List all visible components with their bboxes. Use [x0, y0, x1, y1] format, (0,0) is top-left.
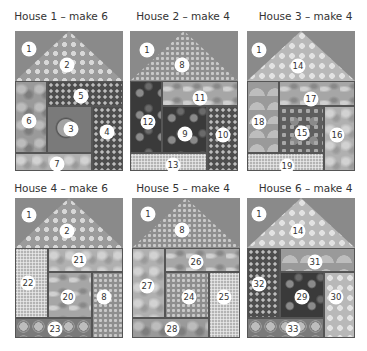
patch-label: 15 [295, 126, 310, 141]
patch-label: 1 [252, 207, 267, 222]
patch-label: 20 [61, 290, 76, 305]
patch-label: 28 [165, 322, 180, 337]
patch-label: 31 [308, 255, 323, 270]
patch-label: 1 [22, 42, 37, 57]
patch-label: 5 [74, 89, 89, 104]
patch-label: 21 [72, 253, 87, 268]
house-4-block: 1 2 22 21 20 8 23 [15, 198, 123, 338]
house-6-block: 1 14 32 31 29 30 33 [247, 198, 355, 338]
patch-label: 18 [252, 115, 267, 130]
patch-label: 3 [64, 122, 79, 137]
patch-label: 9 [178, 127, 193, 142]
patch-label: 1 [22, 208, 37, 223]
patch-label: 14 [291, 59, 306, 74]
house-2-block: 1 8 11 12 9 10 13 [130, 31, 238, 171]
house-3-title: House 3 – make 4 [244, 10, 367, 22]
patch-label: 7 [50, 157, 65, 172]
patch-label: 22 [21, 276, 36, 291]
patch-label: 32 [252, 277, 267, 292]
patch-label: 29 [295, 290, 310, 305]
house-3-block: 1 14 17 18 15 16 19 [247, 31, 355, 171]
patch-8 [92, 272, 123, 338]
patch-label: 25 [217, 290, 232, 305]
patch-label: 17 [304, 92, 319, 107]
patch-label: 10 [216, 128, 231, 143]
patch-label: 26 [189, 255, 204, 270]
patch-label: 33 [286, 322, 301, 337]
patch-label: 8 [175, 223, 190, 238]
patch-label: 16 [330, 128, 345, 143]
patch-label: 2 [60, 224, 75, 239]
patch-label: 1 [252, 43, 267, 58]
patch-label: 8 [97, 290, 112, 305]
patch-label: 24 [182, 290, 197, 305]
patch-label: 8 [175, 58, 190, 73]
patch-30 [324, 272, 355, 338]
patch-label: 12 [141, 115, 156, 130]
house-5-title: House 5 – make 4 [122, 182, 244, 194]
house-5-block: 1 8 27 26 24 25 28 [132, 198, 240, 338]
house-1-title: House 1 – make 6 [0, 10, 122, 22]
house-1-block: 1 2 5 6 3 4 7 [15, 31, 123, 171]
patch-label: 13 [166, 158, 181, 173]
patch-label: 27 [140, 279, 155, 294]
patch-label: 2 [60, 58, 75, 73]
patch-label: 4 [100, 125, 115, 140]
patch-label: 30 [329, 290, 344, 305]
house-6-title: House 6 – make 4 [244, 182, 367, 194]
house-2-title: House 2 – make 4 [122, 10, 244, 22]
patch-label: 1 [140, 43, 155, 58]
patch-label: 1 [141, 207, 156, 222]
patch-label: 19 [280, 159, 295, 174]
house-4-title: House 4 – make 6 [0, 182, 122, 194]
patch-25 [209, 272, 240, 338]
patch-label: 14 [291, 224, 306, 239]
patch-label: 11 [193, 91, 208, 106]
patch-label: 23 [48, 322, 63, 337]
patch-label: 6 [22, 114, 37, 129]
